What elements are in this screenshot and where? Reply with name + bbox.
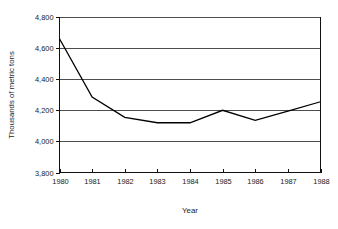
x-tick-label: 1985 [215, 177, 231, 186]
y-tick-label: 4,600 [35, 44, 54, 53]
x-tick-label: 1988 [313, 177, 329, 186]
y-tick-label: 3,800 [35, 169, 54, 178]
x-tick-label: 1981 [84, 177, 100, 186]
x-tick-label: 1984 [182, 177, 198, 186]
y-tick-label: 4,000 [35, 137, 54, 146]
y-axis-title: Thousands of metric tons [7, 51, 16, 139]
x-axis-title: Year [182, 206, 198, 215]
x-tick-label: 1982 [117, 177, 133, 186]
x-tick-label: 1983 [149, 177, 165, 186]
x-tick-label: 1987 [280, 177, 296, 186]
y-tick-label: 4,400 [35, 75, 54, 84]
chart-canvas: 3,8004,0004,2004,4004,6004,800 198019811… [0, 0, 338, 229]
x-tick-label: 1986 [247, 177, 263, 186]
x-ticklabel-group: 198019811982198319841985198619871988 [52, 177, 329, 186]
y-tick-label: 4,800 [35, 13, 54, 22]
x-tick-label: 1980 [52, 177, 68, 186]
line-chart: 3,8004,0004,2004,4004,6004,800 198019811… [0, 0, 338, 229]
y-tick-label: 4,200 [35, 106, 54, 115]
